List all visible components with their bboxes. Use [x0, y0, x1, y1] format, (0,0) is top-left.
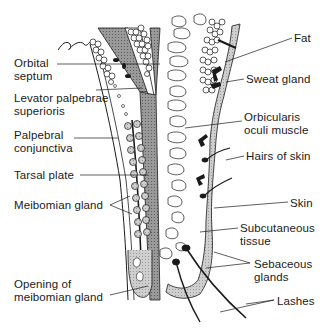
label-skin: Skin	[290, 197, 313, 210]
orbicularis-bundles	[160, 14, 206, 259]
label-palpebral-conjunctiva: Palpebral conjunctiva	[14, 129, 73, 155]
label-hairs-of-skin: Hairs of skin	[246, 150, 311, 163]
conjunctiva-wavy-edge	[58, 42, 90, 50]
label-sweat-gland: Sweat gland	[246, 73, 310, 86]
posterior-margin	[128, 250, 152, 297]
label-lashes: Lashes	[277, 295, 315, 308]
label-sebaceous-glands: Sebaceous glands	[254, 258, 312, 284]
label-levator-palpebrae-superioris: Levator palpebrae superioris	[14, 92, 108, 118]
label-tarsal-plate: Tarsal plate	[14, 169, 74, 182]
label-subcutaneous-tissue: Subcutaneous tissue	[240, 222, 315, 248]
label-orbicularis-oculi-muscle: Orbicularis oculi muscle	[244, 111, 308, 137]
label-orbital-septum: Orbital septum	[14, 57, 52, 83]
label-opening-of-meibomian-gland: Opening of meibomian gland	[14, 278, 103, 304]
label-meibomian-gland: Meibomian gland	[14, 199, 103, 212]
label-fat: Fat	[294, 32, 311, 45]
